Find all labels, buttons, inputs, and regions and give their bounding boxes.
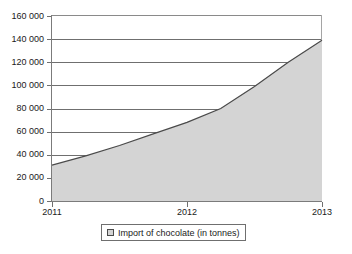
- legend-swatch-icon: [107, 229, 114, 236]
- series-area-fill: [52, 40, 322, 201]
- chart-legend: Import of chocolate (in tonnes): [101, 224, 246, 241]
- legend-item-label: Import of chocolate (in tonnes): [118, 228, 240, 238]
- area-chart: 160 000140 000120 000100 00080 00060 000…: [0, 0, 352, 254]
- y-tick-label: 80 000: [16, 104, 44, 113]
- y-tick-label: 160 000: [11, 12, 44, 21]
- x-tick-label: 2011: [32, 207, 72, 217]
- y-tick-label: 0: [39, 197, 44, 206]
- y-tick-label: 20 000: [16, 173, 44, 182]
- x-tick-label: 2013: [302, 207, 342, 217]
- x-tick-label: 2012: [167, 207, 207, 217]
- y-tick-label: 60 000: [16, 127, 44, 136]
- y-axis-line: [51, 15, 52, 202]
- y-tick-label: 40 000: [16, 150, 44, 159]
- series-import-of-chocolate: [52, 16, 322, 202]
- y-tick-label: 140 000: [11, 35, 44, 44]
- y-tick-label: 100 000: [11, 81, 44, 90]
- y-tick-label: 120 000: [11, 58, 44, 67]
